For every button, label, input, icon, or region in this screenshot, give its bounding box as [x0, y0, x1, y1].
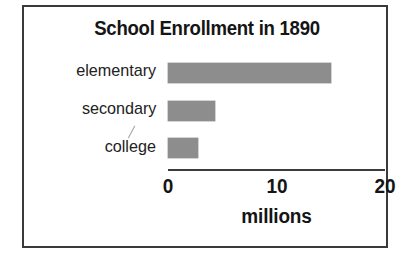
category-label-college: college [105, 137, 156, 157]
bar-college [168, 138, 198, 158]
x-tick-label-20: 20 [374, 175, 395, 198]
category-label-secondary: secondary [81, 99, 156, 119]
x-axis-line [168, 169, 385, 171]
bar-chart-plot-area: elementary secondary college 0 10 20 mil… [24, 7, 390, 250]
x-axis-caption: millions [173, 205, 379, 228]
bar-secondary [168, 101, 215, 121]
figure-border: School Enrollment in 1890 elementary sec… [22, 5, 388, 248]
bar-elementary [168, 63, 331, 83]
figure-canvas: School Enrollment in 1890 elementary sec… [0, 0, 410, 262]
category-label-elementary: elementary [76, 61, 156, 81]
x-tick-label-0: 0 [163, 175, 174, 198]
x-tick-label-10: 10 [266, 175, 287, 198]
